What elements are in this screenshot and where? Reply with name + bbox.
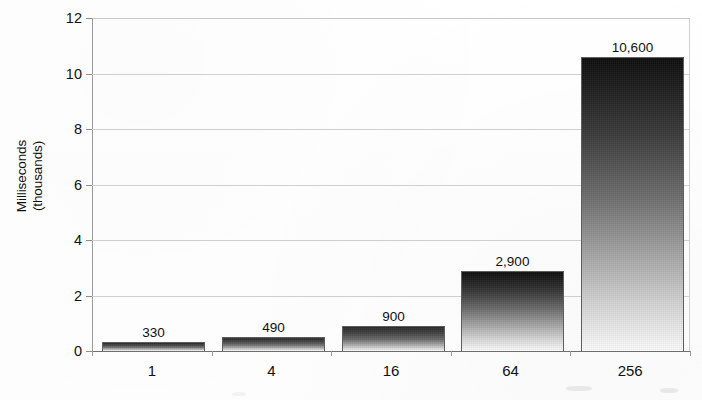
bar-value-label: 330 — [142, 325, 165, 340]
bar: 490 — [222, 337, 325, 351]
y-tick-mark — [86, 240, 92, 241]
x-tick-mark — [331, 351, 332, 356]
bar: 2,900 — [461, 271, 564, 351]
x-tick-label: 1 — [148, 362, 156, 379]
x-tick-mark — [690, 351, 691, 356]
bar-value-label: 10,600 — [612, 40, 653, 55]
scan-smudge — [232, 392, 246, 396]
y-tick-mark — [86, 129, 92, 130]
bar-value-label: 900 — [382, 309, 405, 324]
x-tick-mark — [570, 351, 571, 356]
y-tick-label: 12 — [52, 10, 82, 26]
y-tick-label: 4 — [52, 232, 82, 248]
x-tick-mark — [212, 351, 213, 356]
x-tick-label: 16 — [383, 362, 400, 379]
x-tick-label: 64 — [502, 362, 519, 379]
y-tick-label: 6 — [52, 177, 82, 193]
bar-value-label: 2,900 — [496, 254, 530, 269]
bar-value-label: 490 — [262, 320, 285, 335]
y-tick-label: 8 — [52, 121, 82, 137]
bar-chart-figure: Milliseconds (thousands) 024681012 33049… — [0, 0, 702, 400]
bar: 900 — [342, 326, 445, 351]
scan-smudge — [660, 388, 678, 393]
y-tick-mark — [86, 296, 92, 297]
bar: 330 — [102, 342, 205, 351]
y-tick-mark — [86, 18, 92, 19]
y-tick-label: 0 — [52, 343, 82, 359]
x-tick-mark — [92, 351, 93, 356]
scan-smudge — [566, 386, 592, 391]
y-tick-label: 2 — [52, 288, 82, 304]
x-axis-line — [92, 351, 690, 352]
y-axis-title-line-2: (thousands) — [30, 140, 46, 212]
y-tick-mark — [86, 185, 92, 186]
x-tick-label: 256 — [618, 362, 643, 379]
bar: 10,600 — [581, 57, 684, 351]
x-tick-mark — [451, 351, 452, 356]
y-axis-title-line-1: Milliseconds — [14, 140, 30, 212]
y-tick-mark — [86, 74, 92, 75]
x-tick-label: 4 — [267, 362, 275, 379]
y-tick-label: 10 — [52, 66, 82, 82]
y-axis-title: Milliseconds (thousands) — [0, 0, 60, 352]
